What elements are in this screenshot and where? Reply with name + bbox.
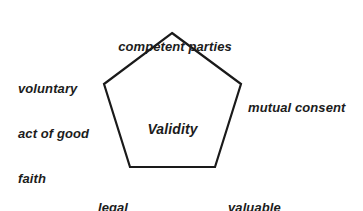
- label-voluntary-line2: act of good: [18, 126, 89, 141]
- diagram-canvas: competent parties voluntary act of good …: [0, 0, 363, 211]
- label-legal-purpose: legal purpose: [58, 170, 168, 211]
- label-valuable-consideration: valuable consideration: [228, 170, 315, 211]
- label-mutual-consent-line1: mutual consent: [248, 100, 345, 115]
- label-valuable-consideration-line1: valuable: [228, 200, 315, 211]
- label-validity-center: Validity: [103, 92, 242, 167]
- label-legal-purpose-line1: legal: [58, 200, 168, 211]
- label-voluntary-line1: voluntary: [18, 81, 89, 96]
- label-mutual-consent: mutual consent: [248, 70, 345, 145]
- label-validity-text: Validity: [103, 122, 242, 137]
